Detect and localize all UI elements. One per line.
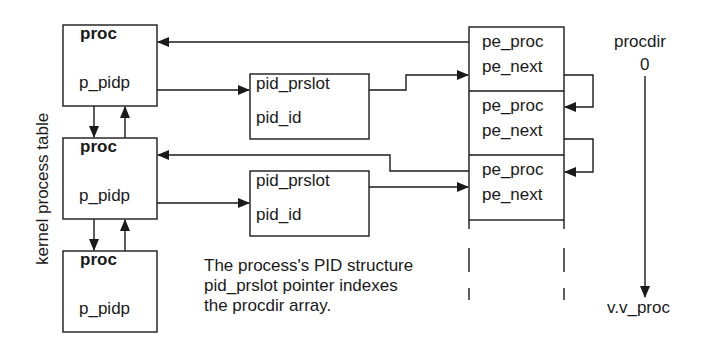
pid-2-prslot: pid_prslot [256, 171, 330, 191]
procdir-end-index: v.v_proc [607, 298, 670, 318]
procdir-1-pe-next: pe_next [482, 57, 543, 77]
kernel-process-table-label: kernel process table [33, 113, 53, 265]
proc-1-title: proc [80, 24, 117, 44]
proc-3-field: p_pidp [79, 299, 130, 319]
arrow-pe-proc-to-proc-2 [158, 155, 469, 171]
procdir-3-pe-next: pe_next [482, 185, 543, 205]
arrow-pe-next-1 [564, 75, 593, 107]
pid-1-prslot: pid_prslot [256, 74, 330, 94]
caption-line-3: the procdir array. [204, 296, 413, 316]
caption-line-2: pid_prslot pointer indexes [204, 276, 413, 296]
procdir-2-pe-next: pe_next [482, 121, 543, 141]
proc-2-title: proc [80, 137, 117, 157]
proc-1-field: p_pidp [79, 73, 130, 93]
caption-line-1: The process's PID structure [204, 256, 413, 276]
procdir-2-pe-proc: pe_proc [482, 96, 543, 116]
procdir-start-index: 0 [640, 55, 649, 75]
proc-3-title: proc [80, 250, 117, 270]
proc-2-field: p_pidp [79, 186, 130, 206]
pid-1-id: pid_id [256, 108, 301, 128]
arrow-pe-next-2 [564, 139, 593, 172]
procdir-title: procdir [614, 32, 666, 52]
arrow-prslot-1-to-procdir [369, 75, 468, 90]
procdir-3-pe-proc: pe_proc [482, 160, 543, 180]
caption: The process's PID structure pid_prslot p… [204, 256, 413, 316]
procdir-1-pe-proc: pe_proc [482, 32, 543, 52]
pid-2-id: pid_id [256, 205, 301, 225]
